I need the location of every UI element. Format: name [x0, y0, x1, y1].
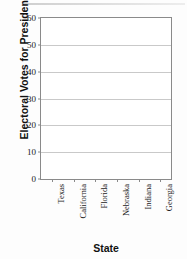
gridline — [41, 152, 171, 153]
gridline — [41, 72, 171, 73]
y-tick-label: 50 — [27, 40, 41, 50]
x-category-label: California — [78, 184, 88, 240]
x-tick-mark — [117, 179, 118, 182]
x-tick-mark — [95, 179, 96, 182]
x-category-label: Florida — [99, 184, 109, 240]
x-axis-title: State — [40, 242, 172, 254]
scan-artifact-line — [22, 3, 185, 5]
y-tick-label: 30 — [27, 94, 41, 104]
gridline — [41, 45, 171, 46]
y-tick-label: 40 — [27, 67, 41, 77]
x-category-label: Indiana — [143, 184, 153, 240]
y-tick-label: 20 — [27, 120, 41, 130]
chart-figure: Electoral Votes for President 0102030405… — [0, 0, 187, 259]
x-category-label: Nebraska — [121, 184, 131, 240]
x-tick-mark — [52, 179, 53, 182]
x-tick-mark — [139, 179, 140, 182]
gridline — [41, 99, 171, 100]
y-tick-label: 60 — [27, 13, 41, 23]
x-category-label: Texas — [56, 184, 66, 240]
y-tick-label: 10 — [27, 147, 41, 157]
x-tick-mark — [160, 179, 161, 182]
x-category-label: Georgia — [164, 184, 174, 240]
gridline — [41, 125, 171, 126]
y-tick-label: 0 — [32, 174, 42, 184]
plot-area: 0102030405060TexasCaliforniaFloridaNebra… — [40, 17, 172, 180]
x-tick-mark — [74, 179, 75, 182]
